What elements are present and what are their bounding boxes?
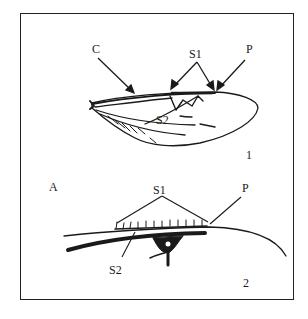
wing-diagram xyxy=(0,0,308,319)
label-s1-panel-1: S1 xyxy=(189,48,202,60)
panel-number-2: 2 xyxy=(243,277,249,289)
panel-number-1: 1 xyxy=(246,149,252,161)
label-s1-panel-2: S1 xyxy=(153,184,166,196)
label-s2-panel-2: S2 xyxy=(109,264,122,276)
panel-1-wing-drawing xyxy=(90,92,258,146)
panel-1-pointers xyxy=(98,58,245,93)
label-a-panel-2: A xyxy=(49,181,58,193)
label-p-panel-2: P xyxy=(242,182,249,194)
label-c-panel-1: C xyxy=(92,43,100,55)
panel-2-drawing xyxy=(64,220,286,265)
label-p-panel-1: P xyxy=(246,43,253,55)
label-s2-panel-1: S2 xyxy=(156,114,169,126)
